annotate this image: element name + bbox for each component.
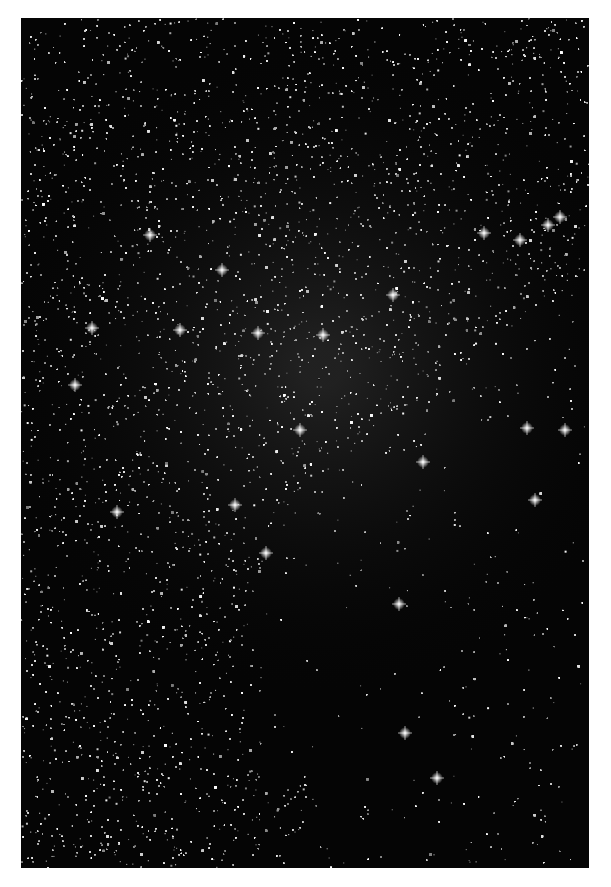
astronomy-photo [21,18,589,868]
star-field-canvas [21,18,589,868]
